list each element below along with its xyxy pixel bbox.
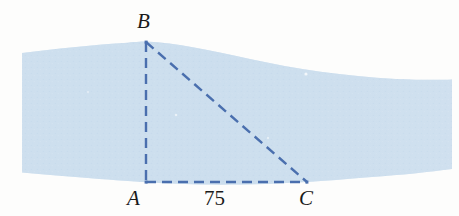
river-band xyxy=(22,42,452,185)
side-length-label-ac: 75 xyxy=(204,188,225,209)
diagram-canvas xyxy=(0,0,459,216)
river-texture xyxy=(22,42,452,185)
vertex-a-node xyxy=(145,181,148,184)
water-fleck xyxy=(175,114,178,117)
vertex-label-b: B xyxy=(137,11,150,32)
water-fleck xyxy=(87,91,89,93)
water-fleck xyxy=(304,72,307,75)
vertex-c-node xyxy=(305,181,308,184)
water-fleck xyxy=(267,137,269,139)
vertex-label-c: C xyxy=(299,188,313,209)
vertex-b-node xyxy=(145,41,148,44)
river-triangle-figure: B A C 75 xyxy=(0,0,459,216)
vertex-label-a: A xyxy=(127,188,140,209)
